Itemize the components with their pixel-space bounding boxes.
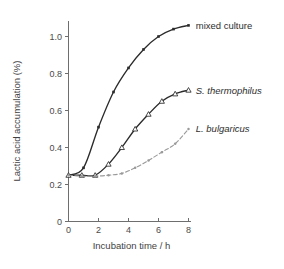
axes: 00.20.40.60.81.002468: [49, 21, 191, 235]
chart-figure: 00.20.40.60.81.002468 mixed cultureS. th…: [0, 0, 284, 269]
x-tick-label: 0: [66, 225, 71, 235]
y-tick-label: 0.8: [49, 69, 62, 79]
y-tick-label: 0.2: [49, 180, 62, 190]
series-labels: mixed cultureS. thermophilusL. bulgaricu…: [196, 20, 262, 135]
data-point-marker: [187, 128, 190, 131]
data-point-marker: [161, 151, 164, 154]
x-tick-label: 6: [156, 225, 161, 235]
series-s-thermophilus: [66, 88, 191, 178]
x-tick-label: 2: [96, 225, 101, 235]
data-point-marker: [186, 88, 191, 93]
series-l-bulgaricus: [67, 128, 190, 178]
x-tick-label: 4: [126, 225, 131, 235]
data-point-marker: [107, 174, 110, 177]
data-series: [66, 24, 191, 177]
series-label-l-bulgaricus: L. bulgaricus: [196, 123, 250, 134]
data-point-marker: [187, 24, 190, 27]
series-label-s-thermophilus: S. thermophilus: [196, 85, 262, 96]
series-label-mixed-culture: mixed culture: [196, 20, 253, 31]
data-point-marker: [121, 172, 124, 175]
data-point-marker: [82, 167, 85, 170]
data-point-marker: [127, 67, 130, 70]
line-chart: 00.20.40.60.81.002468 mixed cultureS. th…: [0, 0, 284, 269]
y-tick-label: 0: [57, 217, 62, 227]
data-point-marker: [172, 28, 175, 31]
data-point-marker: [142, 48, 145, 51]
y-tick-label: 0.6: [49, 106, 62, 116]
data-point-marker: [81, 175, 84, 178]
data-point-marker: [134, 167, 137, 170]
x-axis-title: Incubation time / h: [93, 240, 171, 251]
y-tick-label: 0.4: [49, 143, 62, 153]
data-point-marker: [94, 175, 97, 178]
data-point-marker: [67, 174, 70, 177]
series-line: [69, 129, 189, 176]
data-point-marker: [97, 126, 100, 129]
data-point-marker: [174, 143, 177, 146]
x-tick-label: 8: [186, 225, 191, 235]
series-mixed-culture: [67, 24, 190, 176]
y-tick-label: 1.0: [49, 32, 62, 42]
data-point-marker: [112, 91, 115, 94]
data-point-marker: [147, 159, 150, 162]
y-axis-title: Lactic acid accumulation (%): [11, 61, 22, 182]
data-point-marker: [157, 35, 160, 38]
series-line: [69, 25, 189, 175]
